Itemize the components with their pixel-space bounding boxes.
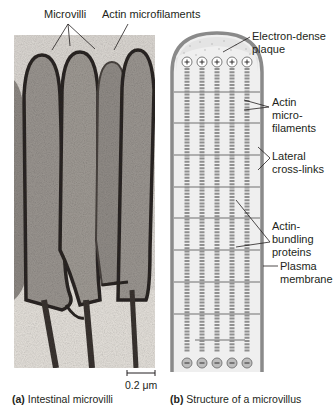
scale-bar: [127, 370, 155, 376]
label-cross-links: cross-links: [272, 163, 324, 176]
label-microvilli: Microvilli: [44, 8, 86, 21]
caption-a-text: Intestinal microvilli: [25, 393, 113, 405]
label-membrane: membrane: [280, 273, 333, 286]
label-plasma: Plasma: [280, 260, 317, 273]
caption-b-text: Structure of a microvillus: [183, 393, 301, 405]
caption-a: (a) Intestinal microvilli: [12, 393, 113, 405]
label-actin-microfilaments-a: Actin microfilaments: [102, 8, 200, 21]
caption-b: (b) Structure of a microvillus: [170, 393, 301, 405]
caption-b-letter: (b): [170, 393, 183, 405]
micrograph-image: [14, 35, 155, 368]
label-filaments: filaments: [272, 122, 316, 135]
label-plaque: plaque: [252, 43, 285, 56]
scale-bar-label: 0.2 μm: [125, 379, 157, 392]
label-actin: Actin: [272, 96, 296, 109]
caption-a-letter: (a): [12, 393, 25, 405]
label-actin-bundling-2: bundling: [272, 233, 314, 246]
microvillus-diagram: [172, 33, 262, 372]
label-micro: micro-: [272, 109, 303, 122]
label-actin-bundling-3: proteins: [272, 246, 311, 259]
label-electron-dense: Electron-dense: [252, 30, 326, 43]
label-lateral: Lateral: [272, 150, 306, 163]
label-actin-bundling-1: Actin-: [272, 220, 300, 233]
